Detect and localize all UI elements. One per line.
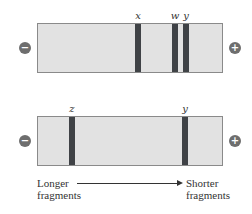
band-label-y: y <box>183 11 189 21</box>
gel-bottom <box>37 116 223 166</box>
negative-electrode-icon: − <box>19 42 31 54</box>
band-label-w: w <box>171 11 180 21</box>
caption-line: Longer <box>37 177 81 189</box>
direction-arrow <box>77 183 177 184</box>
positive-electrode-icon: + <box>229 135 241 147</box>
band-y <box>182 117 188 165</box>
longer-fragments-label: Longer fragments <box>37 177 81 201</box>
gel-top <box>37 23 223 73</box>
band-z <box>69 117 75 165</box>
caption-line: fragments <box>37 189 81 201</box>
shorter-fragments-label: Shorter fragments <box>186 177 230 201</box>
band-label-y: y <box>182 104 188 114</box>
arrow-head-icon <box>177 180 183 186</box>
band-label-z: z <box>69 104 74 114</box>
band-label-x: x <box>135 11 141 21</box>
band-w <box>172 24 178 72</box>
negative-electrode-icon: − <box>19 135 31 147</box>
positive-electrode-icon: + <box>229 42 241 54</box>
band-x <box>135 24 141 72</box>
band-y <box>183 24 189 72</box>
caption-line: fragments <box>186 189 230 201</box>
caption-line: Shorter <box>186 177 230 189</box>
